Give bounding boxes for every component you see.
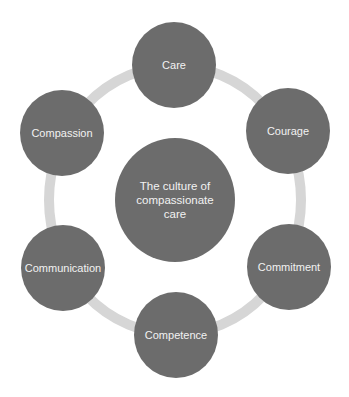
node-label: Competence bbox=[145, 329, 207, 341]
node-label: Communication bbox=[25, 262, 101, 274]
node-care: Care bbox=[132, 22, 216, 108]
node-competence: Competence bbox=[134, 292, 218, 378]
node-compassion: Compassion bbox=[20, 90, 104, 176]
node-courage: Courage bbox=[246, 88, 330, 174]
center-label-line-3: care bbox=[136, 207, 213, 221]
center-label-line-1: The culture of bbox=[136, 179, 213, 193]
node-commitment: Commitment bbox=[247, 224, 331, 310]
node-label: Care bbox=[162, 59, 186, 71]
node-communication: Communication bbox=[21, 225, 105, 311]
node-label: Courage bbox=[267, 125, 309, 137]
center-label-line-2: compassionate bbox=[136, 193, 213, 207]
compassionate-care-cycle-diagram: The culture of compassionate care Care C… bbox=[0, 0, 349, 397]
node-label: Compassion bbox=[31, 127, 92, 139]
node-label: Commitment bbox=[258, 261, 320, 273]
center-node: The culture of compassionate care bbox=[115, 138, 235, 262]
